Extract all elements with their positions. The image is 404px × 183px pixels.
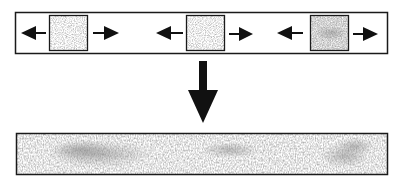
- left-arrow-icon: [156, 26, 183, 40]
- down-arrow-icon: [188, 61, 218, 123]
- right-arrow-icon: [229, 27, 253, 41]
- diagram-canvas: [0, 0, 404, 183]
- right-arrow-icon: [353, 27, 378, 41]
- patch-group-3: [277, 16, 378, 51]
- merged-strip: [17, 134, 388, 175]
- image-patch-1: [50, 16, 88, 51]
- patch-group-1: [21, 16, 119, 51]
- image-patch-2: [187, 16, 225, 51]
- right-arrow-icon: [93, 26, 119, 40]
- left-arrow-icon: [21, 26, 46, 40]
- left-arrow-icon: [277, 26, 303, 40]
- patch-group-2: [156, 16, 253, 51]
- image-patch-3: [311, 16, 349, 51]
